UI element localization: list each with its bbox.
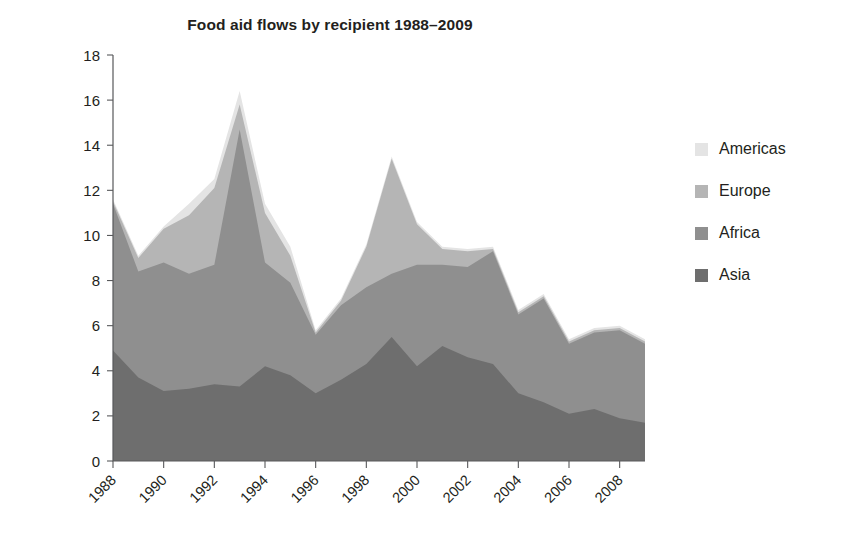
y-tick-label: 8 [92, 272, 100, 289]
x-tick-label: 1996 [288, 472, 322, 506]
legend-swatch-icon [695, 143, 708, 156]
legend-item-europe[interactable]: Europe [695, 170, 786, 212]
legend-swatch-icon [695, 227, 708, 240]
x-tick-label: 1998 [338, 472, 372, 506]
legend-swatch-icon [695, 185, 708, 198]
y-tick-label: 10 [83, 227, 100, 244]
legend-label: Asia [719, 266, 750, 284]
x-tick-label: 2002 [440, 472, 474, 506]
x-tick-label: 2004 [490, 472, 524, 506]
y-tick-label: 2 [92, 407, 100, 424]
y-tick-label: 4 [92, 362, 100, 379]
chart-legend: AmericasEuropeAfricaAsia [695, 128, 786, 296]
y-tick-label: 6 [92, 317, 100, 334]
legend-label: Africa [719, 224, 760, 242]
legend-item-asia[interactable]: Asia [695, 254, 786, 296]
x-tick-label: 1990 [136, 472, 170, 506]
y-tick-label: 0 [92, 453, 100, 470]
stacked-areas [113, 91, 645, 461]
x-tick-label: 2000 [389, 472, 423, 506]
legend-swatch-icon [695, 269, 708, 282]
x-tick-label: 2008 [592, 472, 626, 506]
x-tick-label: 1988 [85, 472, 119, 506]
y-axis-ticks: 024681012141618 [83, 47, 113, 470]
y-tick-label: 18 [83, 47, 100, 64]
legend-label: Europe [719, 182, 771, 200]
x-tick-label: 1992 [186, 472, 220, 506]
x-tick-label: 1994 [237, 472, 271, 506]
legend-item-americas[interactable]: Americas [695, 128, 786, 170]
y-tick-label: 14 [83, 137, 100, 154]
y-tick-label: 12 [83, 182, 100, 199]
y-tick-label: 16 [83, 92, 100, 109]
legend-item-africa[interactable]: Africa [695, 212, 786, 254]
x-axis-ticks: 1988199019921994199619982000200220042006… [85, 461, 626, 506]
x-tick-label: 2006 [541, 472, 575, 506]
legend-label: Americas [719, 140, 786, 158]
chart-figure: Food aid flows by recipient 1988–2009 Mi… [0, 0, 841, 543]
